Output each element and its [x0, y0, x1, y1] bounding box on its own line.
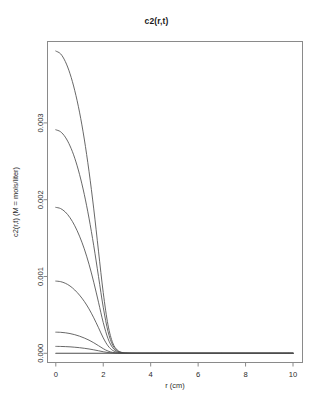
series-line: [56, 51, 293, 353]
y-tick-label: 0.001: [36, 267, 45, 286]
plot-canvas: 0246810 0.0000.0010.0020.003 r (cm)c2(r,…: [0, 0, 313, 411]
y-axis: 0.0000.0010.0020.003: [36, 113, 47, 362]
series-layer: [56, 51, 293, 353]
x-axis: 0246810: [54, 363, 298, 379]
x-tick-label: 0: [54, 370, 58, 379]
x-tick-label: 10: [289, 370, 297, 379]
x-tick-label: 2: [101, 370, 105, 379]
y-tick-label: 0.002: [36, 190, 45, 209]
y-tick-label: 0.000: [36, 344, 45, 363]
y-tick-label: 0.003: [36, 113, 45, 132]
chart-figure: c2(r,t) 0246810 0.0000.0010.0020.003 r (…: [0, 0, 313, 411]
y-axis-label: c2(r,t) (M = mols/liter): [11, 167, 20, 237]
x-tick-label: 8: [243, 370, 247, 379]
x-tick-label: 6: [196, 370, 200, 379]
series-line: [56, 281, 293, 353]
series-line: [56, 130, 293, 353]
series-line: [56, 346, 293, 353]
series-line: [56, 332, 293, 353]
x-tick-label: 4: [149, 370, 153, 379]
x-axis-label: r (cm): [165, 381, 184, 390]
